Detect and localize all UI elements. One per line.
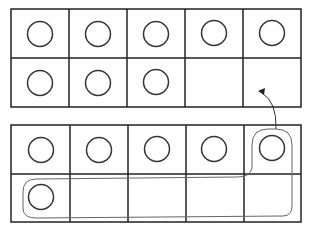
bottom-frame-counters: [29, 136, 285, 210]
arrow-head-icon: [258, 88, 265, 95]
top-ten-frame: [11, 9, 301, 107]
counter: [202, 21, 227, 46]
counter: [145, 137, 170, 162]
counter: [29, 138, 54, 163]
ten-frames-diagram: [0, 0, 311, 237]
bottom-ten-frame: [11, 125, 301, 222]
counter: [28, 22, 53, 47]
counter: [86, 71, 111, 96]
counter: [86, 22, 111, 47]
counter: [28, 71, 53, 96]
counter: [87, 138, 112, 163]
counter: [260, 136, 285, 161]
counter: [202, 137, 227, 162]
counter: [144, 70, 169, 95]
counter: [144, 22, 169, 47]
counter: [260, 21, 285, 46]
move-arrow: [262, 93, 276, 129]
counter: [29, 185, 54, 210]
